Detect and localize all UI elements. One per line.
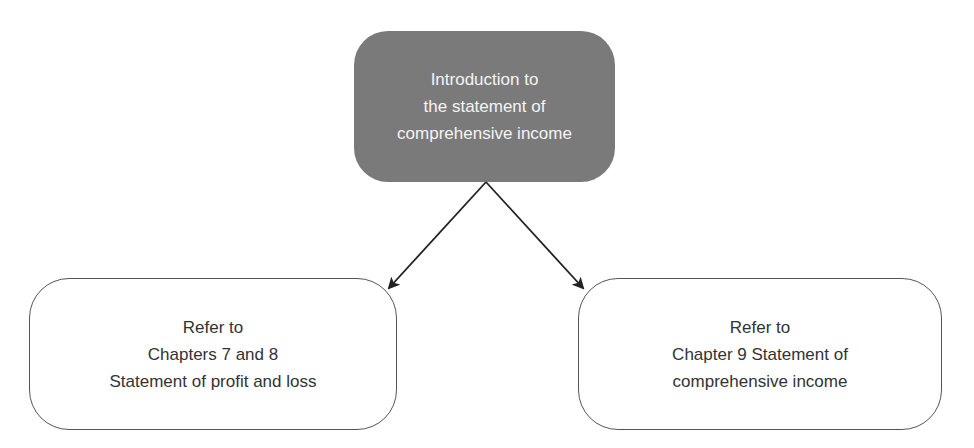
left-node-line-1: Refer to [183,314,243,341]
right-node-line-2: Chapter 9 Statement of [672,341,848,368]
arrow-root-to-left [389,182,486,288]
left-node-line-2: Chapters 7 and 8 [148,341,278,368]
root-node-line-1: Introduction to [431,66,539,93]
left-node-profit-and-loss: Refer to Chapters 7 and 8 Statement of p… [29,278,397,430]
right-node-line-3: comprehensive income [673,368,848,395]
root-node-line-3: comprehensive income [397,120,572,147]
right-node-comprehensive-income: Refer to Chapter 9 Statement of comprehe… [578,278,942,430]
arrow-root-to-right [486,182,583,288]
right-node-line-1: Refer to [730,314,790,341]
root-node-line-2: the statement of [424,93,546,120]
root-node-introduction: Introduction to the statement of compreh… [354,31,615,182]
left-node-line-3: Statement of profit and loss [110,368,317,395]
